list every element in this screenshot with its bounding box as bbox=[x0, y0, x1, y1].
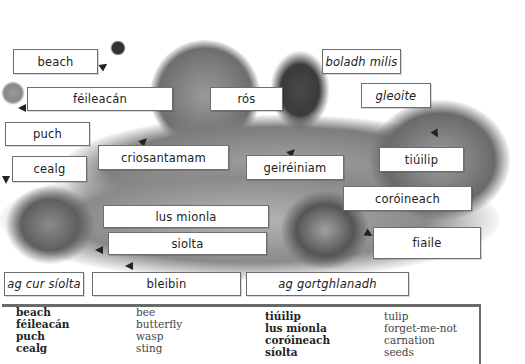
glossary-translation: sting bbox=[136, 342, 182, 354]
glossary-irish-col-1: beach féileacán puch cealg bbox=[16, 306, 70, 354]
label-ros: rós bbox=[210, 87, 283, 111]
arrow-icon bbox=[2, 176, 10, 184]
bee-icon bbox=[108, 40, 128, 56]
label-ag-gortghlanadh: ag gortghlanadh bbox=[246, 272, 409, 296]
label-puch: puch bbox=[5, 122, 90, 146]
glossary-english-col-1: bee butterfly wasp sting bbox=[136, 306, 182, 354]
garden-illustration: beach féileacán rós boladh milis gleoite… bbox=[0, 0, 525, 300]
glossary-translation: butterfly bbox=[136, 318, 182, 330]
glossary-term: tiúilip bbox=[265, 310, 330, 322]
label-tiuilip: tiúilip bbox=[379, 147, 464, 172]
glossary-box: beach féileacán puch cealg bee butterfly… bbox=[2, 304, 481, 364]
glossary-translation: forget-me-not bbox=[384, 322, 457, 334]
glossary-term: cealg bbox=[16, 342, 70, 354]
glossary-term: lus míonla bbox=[265, 322, 330, 334]
glossary-term: beach bbox=[16, 306, 70, 318]
label-criosantamam: criosantamam bbox=[98, 145, 229, 170]
arrow-icon bbox=[18, 104, 26, 112]
label-ag-cur-siolta: ag cur síolta bbox=[4, 272, 84, 296]
label-geireiniam: geiréiniam bbox=[246, 155, 344, 180]
glossary-term: puch bbox=[16, 330, 70, 342]
label-coroineach: coróineach bbox=[343, 186, 472, 211]
label-bleibin: bleibin bbox=[92, 272, 241, 296]
label-beach: beach bbox=[13, 49, 98, 74]
label-lus-mionla: lus mionla bbox=[103, 205, 269, 228]
glossary-translation: bee bbox=[136, 306, 182, 318]
glossary-term: féileacán bbox=[16, 318, 70, 330]
glossary-irish-col-2: tiúilip lus míonla coróineach síolta bbox=[265, 310, 330, 358]
label-gleoite: gleoite bbox=[361, 83, 431, 108]
arrow-icon bbox=[125, 262, 133, 270]
glossary-term: coróineach bbox=[265, 334, 330, 346]
arrow-icon bbox=[98, 60, 109, 71]
label-cealg: cealg bbox=[12, 156, 87, 182]
glossary-translation: wasp bbox=[136, 330, 182, 342]
label-feileacan: féileacán bbox=[27, 87, 173, 111]
label-fiaile: fiaile bbox=[373, 227, 481, 259]
glossary-translation: tulip bbox=[384, 310, 457, 322]
girl-planting-illustration bbox=[5, 185, 95, 265]
label-siolta: siolta bbox=[108, 232, 267, 255]
glossary-translation: seeds bbox=[384, 346, 457, 358]
glossary-term: síolta bbox=[265, 346, 330, 358]
arrow-icon bbox=[95, 246, 103, 254]
glossary-translation: carnation bbox=[384, 334, 457, 346]
label-boladh-milis: boladh milis bbox=[322, 49, 401, 74]
glossary-english-col-2: tulip forget-me-not carnation seeds bbox=[384, 310, 457, 358]
